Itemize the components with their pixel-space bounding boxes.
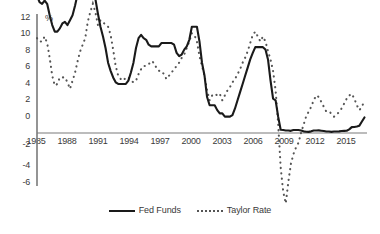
legend-label-taylor-rate: Taylor Rate: [227, 206, 271, 215]
legend-item-taylor-rate: Taylor Rate: [197, 206, 271, 215]
series-line-taylor-rate: [37, 4, 364, 203]
legend-item-fed-funds: Fed Funds: [109, 206, 181, 215]
legend-solid-line-icon: [109, 210, 135, 212]
legend-dotted-line-icon: [197, 210, 223, 212]
chart-legend: Fed Funds Taylor Rate: [0, 206, 380, 215]
chart-container: % 12 10 8 6 4 2 0 -2 -4 -6 1985 1988 199…: [0, 0, 380, 234]
series-line-fed-funds: [37, 0, 364, 132]
legend-label-fed-funds: Fed Funds: [139, 206, 181, 215]
plot-area: [0, 0, 380, 234]
